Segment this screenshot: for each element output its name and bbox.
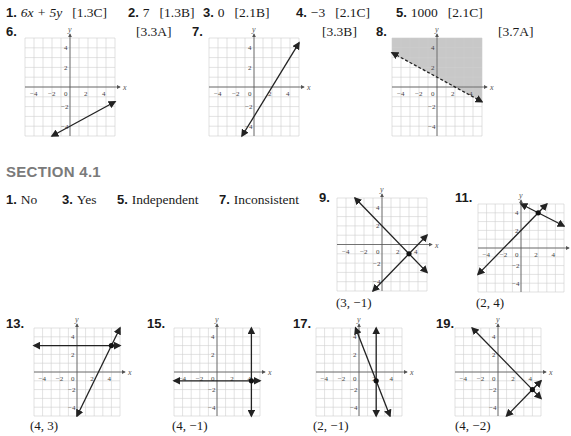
y-tick-label: 2 [353,351,357,359]
x-axis-label: x [127,368,132,377]
solution-15: (4, −1) [172,418,208,434]
item-number-6: 6. [6,24,17,39]
x-tick-label: 0 [71,375,75,383]
y-tick-label: 4 [353,333,357,341]
review-item-1: 1. 6x + 5y [1.3C] [6,3,107,21]
x-tick-label: −4 [483,251,491,259]
item-number: 3. [203,5,214,20]
item-number-15: 15. [147,316,165,331]
x-tick-label: −2 [338,375,346,383]
y-tick-label: −2 [208,386,216,394]
y-tick-label: 4 [492,333,496,341]
item-number: 5. [117,192,128,207]
x-axis-label: x [409,368,414,377]
x-axis-label: x [267,368,272,377]
y-tick-label: −4 [373,278,381,286]
x-tick-label: 0 [376,248,380,256]
x-tick-label: 0 [353,375,357,383]
y-tick-label: −2 [350,386,358,394]
y-axis-label: y [251,25,256,34]
y-tick-label: 4 [248,44,252,52]
item-answer: 1000 [411,5,438,20]
x-tick-label: −2 [232,90,240,98]
y-tick-label: −2 [489,386,497,394]
solution-point [374,378,379,383]
y-tick-label: −2 [61,103,69,111]
item-answer: Independent [132,192,199,207]
y-axis-label: y [379,185,384,194]
x-tick-label: 4 [102,90,106,98]
x-tick-label: 4 [551,251,555,259]
x-tick-label: 0 [64,90,68,98]
y-axis-label: y [356,315,361,324]
section-answer-5: 5. Independent [117,190,199,208]
item-number: 5. [396,5,407,20]
x-tick-label: 4 [528,375,532,383]
section-answer-7: 7. Inconsistent [219,190,299,208]
x-tick-label: 2 [511,375,515,383]
y-axis-label: y [74,315,79,324]
x-tick-label: −2 [415,90,423,98]
x-tick-label: 2 [84,90,88,98]
item-number: 1. [6,192,17,207]
item-number-8: 8. [376,24,387,39]
y-tick-label: 4 [71,333,75,341]
y-tick-label: 4 [376,204,380,212]
x-tick-label: −2 [360,248,368,256]
item-number-19: 19. [436,316,454,331]
y-tick-label: 4 [515,209,519,217]
y-tick-label: 4 [64,44,68,52]
solution-point [249,378,254,383]
x-tick-label: 4 [389,375,393,383]
y-tick-label: −2 [428,103,436,111]
review-item-3: 3. 0 [2.1B] [203,3,269,21]
graph-9: xy−4−202442−2−4 [337,198,427,291]
graph-19: xy−4−202442−2−4 [455,328,541,416]
y-tick-label: −2 [512,262,520,270]
graph-7: xy−4−202442−2−4 [209,38,299,136]
item-reference-8: [3.7A] [498,24,534,40]
y-tick-label: −2 [68,386,76,394]
x-tick-label: −4 [460,375,468,383]
graph-13: xy−4−202442−2−4 [34,328,120,416]
y-tick-label: −4 [350,404,358,412]
y-tick-label: −4 [512,280,520,288]
solution-point [536,210,541,215]
item-reference: [2.1C] [335,5,370,20]
x-tick-label: 0 [492,375,496,383]
y-tick-label: 4 [211,333,215,341]
x-tick-label: −4 [39,375,47,383]
section-answer-3: 3. Yes [62,190,97,208]
item-reference: [2.1B] [235,5,270,20]
x-tick-label: 4 [107,375,111,383]
y-tick-label: 2 [64,64,68,72]
y-tick-label: 4 [431,44,435,52]
x-tick-label: 2 [451,90,455,98]
x-axis-label: x [122,83,127,92]
section-title: SECTION 4.1 [6,163,101,180]
x-tick-label: 4 [286,90,290,98]
solution-11: (2, 4) [476,295,504,311]
x-tick-label: −2 [500,251,508,259]
item-reference: [2.1C] [448,5,483,20]
solution-point [109,343,114,348]
x-tick-label: 0 [515,251,519,259]
item-answer: −3 [311,5,325,20]
y-tick-label: −2 [373,260,381,268]
y-tick-label: −2 [245,103,253,111]
y-tick-label: −4 [68,404,76,412]
item-answer: Inconsistent [234,192,299,207]
x-tick-label: −4 [30,90,38,98]
item-answer: 7 [143,5,150,20]
x-tick-label: −2 [48,90,56,98]
graph-17: xy−4−202442−2−4 [316,328,402,416]
x-tick-label: −4 [342,248,350,256]
item-number: 3. [62,192,73,207]
graph-11: xy−4−202442−2−4 [478,204,564,292]
item-number: 2. [128,5,139,20]
x-axis-label: x [489,83,494,92]
item-number-9: 9. [319,190,330,205]
y-axis-label: y [214,315,219,324]
graph-line [521,204,564,226]
x-tick-label: −2 [56,375,64,383]
